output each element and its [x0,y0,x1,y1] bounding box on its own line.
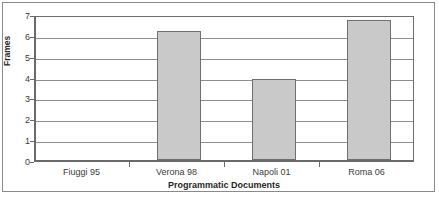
y-axis-tick-label: 7 [8,12,30,21]
bar [252,79,296,160]
x-axis-category-label: Napoli 01 [224,167,319,177]
x-axis-tick [129,162,130,167]
x-axis-tick [319,162,320,167]
x-axis-category-label: Roma 06 [319,167,414,177]
y-axis-tick-label: 0 [8,158,30,167]
x-axis-category-label: Verona 98 [129,167,224,177]
y-axis-tick-label: 4 [8,74,30,83]
bar-group [36,17,413,160]
y-axis-tick [30,162,34,163]
x-axis-tick [224,162,225,167]
bar [347,20,391,160]
x-axis-category-label: Fiuggi 95 [34,167,129,177]
y-axis-tick-label: 2 [8,116,30,125]
bar [157,31,201,160]
y-axis-tick-label: 1 [8,137,30,146]
y-axis-title: Frames [2,36,12,66]
x-axis-title: Programmatic Documents [34,180,414,190]
plot-area [34,16,414,162]
y-axis-tick-label: 3 [8,95,30,104]
bar-chart-figure: 01234567 Frames Fiuggi 95Verona 98Napoli… [0,0,439,199]
